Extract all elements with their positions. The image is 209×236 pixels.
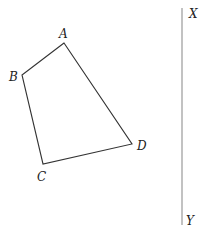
quadrilateral-abcd	[22, 43, 132, 164]
line-label-x: X	[188, 7, 198, 21]
line-label-y: Y	[186, 214, 195, 228]
diagram-canvas: A B C D X Y	[0, 0, 209, 236]
vertex-label-d: D	[136, 139, 147, 153]
vertex-label-b: B	[8, 70, 18, 84]
vertex-label-c: C	[37, 170, 46, 184]
vertex-label-a: A	[58, 27, 68, 41]
